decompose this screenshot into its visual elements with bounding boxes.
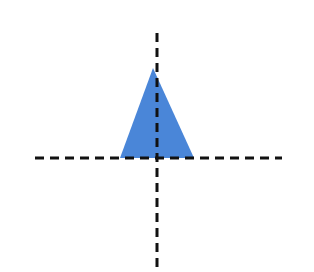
diagram-canvas: [0, 0, 314, 272]
